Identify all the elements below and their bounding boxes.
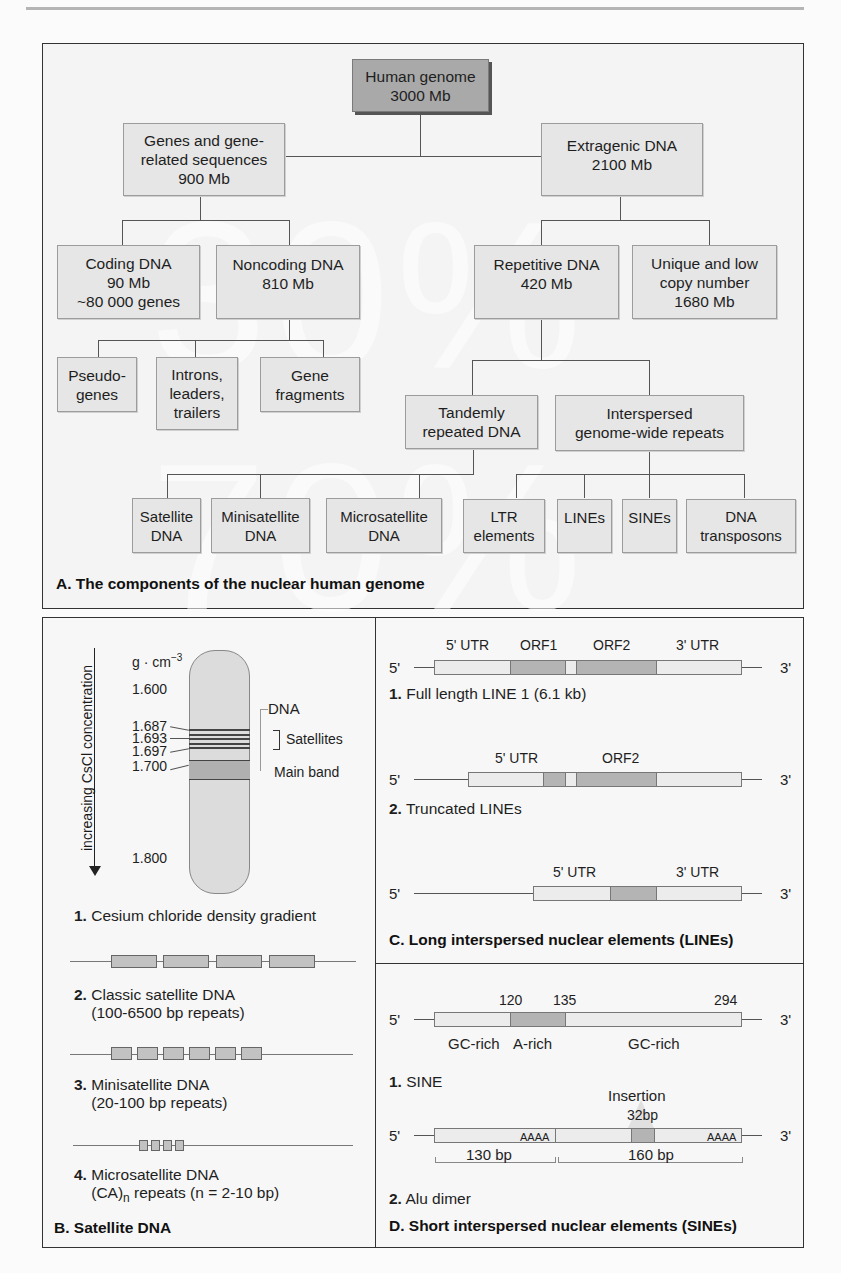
segment-right-monomer-a	[555, 1128, 632, 1143]
dna-strand	[742, 893, 762, 894]
item-text: Cesium chloride density gradient	[91, 907, 316, 924]
segment-5utr	[468, 772, 544, 787]
segment-orf2	[576, 772, 657, 787]
node-minisatellite-dna: Minisatellite DNA	[211, 498, 310, 553]
node-noncoding-dna: Noncoding DNA 810 Mb	[216, 245, 360, 319]
unit-text: g · cm	[132, 654, 171, 670]
repeat-unit	[216, 955, 262, 968]
repeat-unit	[269, 955, 315, 968]
dna-strand	[414, 1019, 434, 1020]
dna-strand	[414, 667, 434, 668]
node-introns-leaders-trailers: Introns, leaders, trailers	[156, 357, 238, 430]
length-bracket	[558, 1157, 559, 1163]
repeat-unit	[163, 955, 209, 968]
item-text: SINE	[406, 1073, 442, 1090]
node-ltr-elements: LTR elements	[463, 499, 545, 553]
connector	[584, 474, 585, 498]
node-interspersed-repeats: Interspersed genome-wide repeats	[555, 395, 744, 451]
item-c2: 2. Truncated LINEs	[389, 800, 522, 818]
panel-b-caption: B. Satellite DNA	[54, 1219, 171, 1237]
node-satellite-dna: Satellite DNA	[132, 498, 201, 553]
main-band	[189, 760, 250, 780]
connector	[98, 340, 324, 341]
three-prime: 3'	[780, 885, 791, 902]
label-orf2: ORF2	[602, 750, 639, 766]
dna-bracket	[260, 709, 261, 771]
item-subtext: (100-6500 bp repeats)	[91, 1004, 244, 1021]
item-number: 1.	[389, 1073, 402, 1090]
connector	[620, 196, 621, 220]
node-sines: SINEs	[622, 499, 677, 553]
node-genes-related: Genes and gene- related sequences 900 Mb	[123, 123, 285, 196]
connector	[289, 220, 290, 245]
segment-a-rich	[510, 1012, 566, 1027]
leader	[170, 738, 189, 739]
label-satellites: Satellites	[286, 731, 343, 747]
label-orf2: ORF2	[593, 637, 630, 653]
repeat-unit	[151, 1140, 160, 1151]
five-prime: 5'	[389, 1127, 400, 1144]
three-prime: 3'	[780, 771, 791, 788]
connector	[285, 156, 541, 157]
density-1697: 1.697	[132, 744, 167, 758]
dna-strand	[414, 1135, 434, 1136]
segment-insertion	[631, 1128, 655, 1143]
repeat-unit	[215, 1047, 236, 1060]
repeat-unit	[111, 955, 157, 968]
repeat-unit	[163, 1047, 184, 1060]
connector	[419, 474, 420, 498]
item-b1: 1. Cesium chloride density gradient	[74, 907, 316, 925]
connector	[420, 112, 421, 156]
dna-strand	[414, 779, 469, 780]
region-gc-rich: GC-rich	[448, 1035, 500, 1052]
segment-3utr	[656, 772, 742, 787]
label-3utr: 3' UTR	[676, 864, 719, 880]
segment-orf1-partial	[543, 772, 566, 787]
item-text: Classic satellite DNA	[91, 986, 235, 1003]
repeat-unit	[137, 1047, 158, 1060]
label-5utr: 5' UTR	[495, 750, 538, 766]
label-main-band: Main band	[274, 764, 339, 780]
density-1600: 1.600	[132, 681, 167, 697]
connector	[289, 319, 290, 340]
item-text: Microsatellite DNA	[91, 1166, 218, 1183]
segment-3utr	[656, 660, 742, 675]
panel-a-caption: A. The components of the nuclear human g…	[56, 575, 425, 593]
band-1687	[189, 729, 250, 731]
connector	[541, 319, 542, 360]
node-pseudogenes: Pseudo- genes	[57, 357, 137, 412]
three-prime: 3'	[780, 659, 791, 676]
item-text: Alu dimer	[405, 1190, 470, 1207]
connector	[167, 474, 474, 475]
item-number: 1.	[389, 685, 402, 702]
five-prime: 5'	[389, 885, 400, 902]
segment-5utr	[533, 886, 611, 901]
label-5utr: 5' UTR	[553, 864, 596, 880]
connector	[122, 220, 123, 245]
node-unique-low-copy: Unique and low copy number 1680 Mb	[632, 245, 777, 319]
item-c1: 1. Full length LINE 1 (6.1 kb)	[389, 685, 586, 703]
segment-3utr	[656, 886, 742, 901]
connector	[473, 449, 474, 474]
segment-gc-rich-left	[434, 1012, 511, 1027]
dna-bracket	[260, 709, 268, 710]
item-number: 2.	[74, 986, 87, 1003]
item-subtext: (20-100 bp repeats)	[91, 1094, 227, 1111]
connector	[649, 360, 650, 395]
segment-orf	[610, 886, 657, 901]
connector	[649, 451, 650, 474]
region-gc-rich: GC-rich	[628, 1035, 680, 1052]
node-extragenic: Extragenic DNA 2100 Mb	[541, 123, 703, 196]
item-text: Minisatellite DNA	[91, 1076, 209, 1093]
unit-exponent: −3	[171, 652, 182, 663]
position-294: 294	[714, 992, 737, 1008]
label-3utr: 3' UTR	[676, 637, 719, 653]
polya-right: AAAA	[707, 1131, 736, 1143]
node-human-genome: Human genome 3000 Mb	[352, 59, 489, 112]
item-text: Full length LINE 1 (6.1 kb)	[406, 685, 586, 702]
segment-gc-rich-right	[565, 1012, 742, 1027]
dna-strand	[742, 1135, 762, 1136]
three-prime: 3'	[780, 1011, 791, 1028]
item-number: 4.	[74, 1166, 87, 1183]
repeat-unit	[189, 1047, 210, 1060]
